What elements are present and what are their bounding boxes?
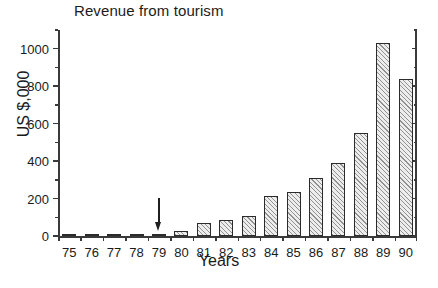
y-tick-minor [55, 29, 59, 31]
bar [62, 234, 76, 236]
arrow-shaft [158, 198, 160, 224]
y-tick-major [53, 123, 58, 125]
x-tick [305, 236, 307, 241]
bar [242, 216, 256, 236]
y-tick-label: 600 [27, 116, 49, 131]
bar [85, 234, 99, 236]
bar [219, 220, 233, 236]
x-tick [350, 236, 352, 241]
bar [376, 43, 390, 236]
y-tick-minor-right [414, 179, 418, 181]
x-tick [148, 236, 150, 241]
x-tick [372, 236, 374, 241]
bar [107, 234, 121, 236]
y-tick-label: 0 [42, 229, 49, 244]
bar [331, 163, 345, 236]
x-tick [215, 236, 217, 241]
y-axis-line [58, 30, 60, 236]
y-tick-major [53, 85, 58, 87]
x-tick [80, 236, 82, 241]
y-tick-minor [55, 217, 59, 219]
x-tick [327, 236, 329, 241]
y-tick-major-right [412, 48, 417, 50]
y-tick-minor [55, 104, 59, 106]
y-tick-minor [55, 142, 59, 144]
y-tick-minor [55, 67, 59, 69]
y-tick-label: 400 [27, 154, 49, 169]
bar [287, 192, 301, 236]
y-tick-label: 800 [27, 79, 49, 94]
y-tick-minor [55, 179, 59, 181]
x-tick [103, 236, 105, 241]
x-tick [125, 236, 127, 241]
bar [130, 234, 144, 236]
y-tick-minor-right [414, 29, 418, 31]
y-tick-minor-right [414, 67, 418, 69]
bar [354, 133, 368, 236]
bar [399, 79, 413, 236]
bar [309, 178, 323, 236]
y-tick-minor-right [414, 142, 418, 144]
x-tick [395, 236, 397, 241]
x-tick [193, 236, 195, 241]
x-tick [170, 236, 172, 241]
y-tick-major [53, 48, 58, 50]
y-tick-label: 1000 [20, 41, 49, 56]
x-tick [282, 236, 284, 241]
x-tick [260, 236, 262, 241]
bar [174, 231, 188, 236]
plot-area: 02004006008001000 7576777879808182838485… [58, 30, 417, 236]
bar [152, 234, 166, 236]
y-tick-major [53, 198, 58, 200]
x-tick [416, 236, 418, 241]
y-tick-major [53, 160, 58, 162]
bar-chart: Revenue from tourism US $,000 0200400600… [0, 0, 438, 288]
y-axis-title: US $,000 [15, 44, 33, 164]
y-tick-minor-right [414, 104, 418, 106]
bar [197, 223, 211, 236]
chart-title: Revenue from tourism [74, 2, 224, 19]
y-tick-minor-right [414, 217, 418, 219]
arrow-head [155, 222, 161, 231]
bar [264, 196, 278, 236]
x-tick [238, 236, 240, 241]
x-axis-title: Years [0, 252, 438, 270]
y-tick-label: 200 [27, 191, 49, 206]
secondary-y-axis-line [415, 30, 417, 236]
x-tick [58, 236, 60, 241]
